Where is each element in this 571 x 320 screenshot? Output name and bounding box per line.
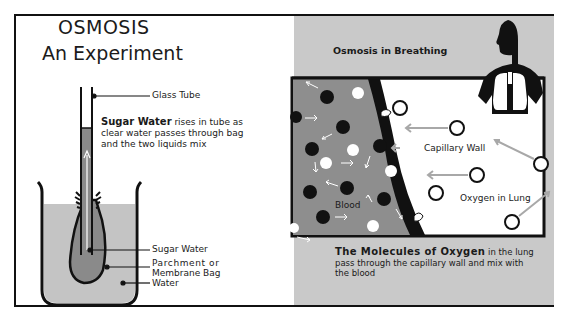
experiment-description: Sugar Water rises in tube as clear water…: [101, 116, 261, 150]
person-silhouette-icon: [478, 20, 543, 114]
caption-bold: The Molecules of Oxygen: [335, 246, 485, 257]
breathing-title: Osmosis in Breathing: [333, 45, 447, 56]
description-bold: Sugar Water: [101, 116, 172, 127]
bag-label-line1: Parchment or: [152, 258, 220, 268]
glass-tube-label: Glass Tube: [152, 90, 200, 100]
breathing-caption: The Molecules of Oxygen in the lung pass…: [335, 247, 535, 279]
capillary-wall-label: Capillary Wall: [424, 143, 485, 153]
experiment-title: OSMOSIS: [58, 16, 150, 38]
sugar-water-label: Sugar Water: [152, 244, 208, 254]
bag-label-line2: Membrane Bag: [152, 268, 221, 278]
oxygen-in-lung-label: Oxygen in Lung: [460, 193, 531, 203]
experiment-subtitle: An Experiment: [42, 42, 183, 64]
blood-label: Blood: [335, 200, 360, 210]
water-label: Water: [152, 278, 179, 288]
